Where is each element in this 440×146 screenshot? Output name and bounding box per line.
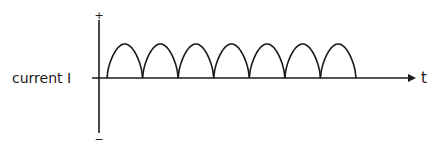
waveform-arches [107, 44, 356, 78]
waveform-arch [320, 44, 356, 78]
waveform-arch [178, 44, 214, 78]
waveform-arch [143, 44, 179, 78]
waveform-arch [214, 44, 250, 78]
y-axis-minus-sign: − [94, 133, 103, 146]
waveform-arch [249, 44, 285, 78]
x-axis-label: t [421, 69, 427, 87]
waveform-arch [107, 44, 143, 78]
y-axis-plus-sign: + [94, 9, 103, 22]
waveform-arch [285, 44, 321, 78]
y-axis-label: current I [12, 70, 71, 86]
x-axis-arrowhead-icon [408, 74, 416, 82]
rectified-current-diagram: + − t current I [0, 0, 440, 146]
